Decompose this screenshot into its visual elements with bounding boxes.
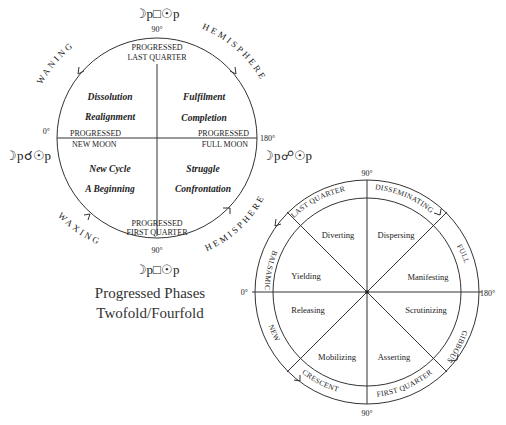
hemisphere-bottom-label: HEMISPHERE [203,192,266,253]
quadrant-completion: Completion [181,113,226,123]
arrow-icon [223,208,230,214]
waning-label: WANING [35,40,76,86]
quadrant-a-beginning: A Beginning [84,184,135,194]
sector-scrutinizing: Scrutinizing [405,305,447,315]
caption-line1: Progressed Phases [95,285,206,301]
ring-label-crescent: CRESCENT [301,368,340,394]
arrow-icon [275,219,281,226]
degree-label-top: 90° [151,25,162,34]
quadrant-fulfilment: Fulfilment [182,92,226,102]
caption-line2: Twofold/Fourfold [96,305,204,321]
quadrant-confrontation: Confrontation [175,184,231,194]
ring-label-balsamic: BALSAMIC [263,249,280,290]
progressed-full-moon-line2: FULL MOON [202,140,248,149]
quadrant-realignment: Realignment [84,112,136,122]
progressed-last-quarter-line2: LAST QUARTER [127,53,187,62]
conjunction-aspect-glyph: ☽p☌☉p [5,148,51,163]
progressed-new-moon-line2: NEW MOON [72,140,117,149]
arrow-icon [434,209,441,215]
sector-releasing: Releasing [291,305,325,315]
progressed-first-quarter-line2: FIRST QUARTER [127,228,189,237]
quadrant-struggle: Struggle [186,164,220,174]
wheel-degree-left: 0° [241,288,248,297]
wheel-center-dot [365,290,369,294]
progressed-last-quarter-line1: PROGRESSED [131,43,182,52]
ring-label-first-quarter: FIRST QUARTER [376,368,434,399]
wheel-degree-right: 180° [480,289,495,298]
sector-dispersing: Dispersing [378,230,416,240]
degree-label-bottom: 90° [151,246,162,255]
quadrant-new-cycle: New Cycle [88,164,131,174]
square-aspect-glyph-bottom: ☽p□☉p [135,262,180,277]
arrow-icon [84,214,90,220]
sector-asserting: Asserting [378,352,411,362]
sector-manifesting: Manifesting [407,272,449,282]
ring-label-new: NEW [267,323,283,343]
eightfold-phase-wheel: 90° 90° 0° 180° LAST QUARTER DISSEMINATI… [241,169,495,418]
degree-label-right: 180° [260,134,275,143]
progressed-phases-diagrams: ☽p□☉p 90° WANING HEMISPHERE WAXING HEMIS… [0,0,506,425]
ring-divider [434,359,447,372]
progressed-full-moon-line1: PROGRESSED [198,129,249,138]
ring-divider [287,359,300,372]
sector-diverting: Diverting [322,230,355,240]
progressed-new-moon-line1: PROGRESSED [70,129,121,138]
ring-label-last-quarter: LAST QUARTER [289,184,346,220]
degree-label-left: 0° [43,127,50,136]
progressed-first-quarter-line1: PROGRESSED [131,219,182,228]
sector-mobilizing: Mobilizing [318,352,357,362]
opposition-aspect-glyph: ☽p☍☉p [262,148,312,163]
wheel-degree-bottom: 90° [361,409,372,418]
sector-yielding: Yielding [291,271,321,281]
waxing-label: WAXING [56,210,103,247]
wheel-degree-top: 90° [361,169,372,178]
square-aspect-glyph-top: ☽p□☉p [135,6,180,21]
quadrant-dissolution: Dissolution [87,92,133,102]
